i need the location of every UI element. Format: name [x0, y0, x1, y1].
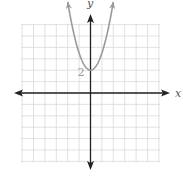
y-axis-label: y	[86, 0, 94, 10]
axes	[14, 14, 170, 170]
vertex-label: 2	[78, 66, 85, 79]
coordinate-plane: x y 2	[0, 0, 183, 178]
x-axis-label: x	[175, 87, 182, 100]
